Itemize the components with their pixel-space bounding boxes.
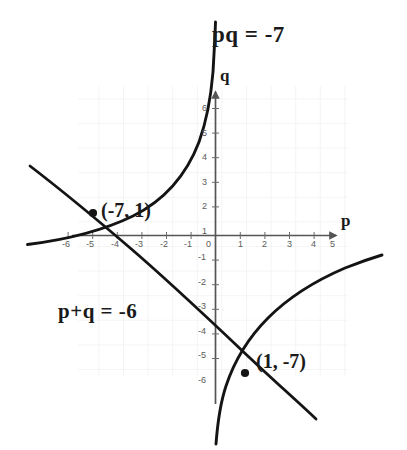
grid-background — [78, 86, 348, 376]
intersection-dot-lower — [241, 369, 249, 377]
x-tick-label--2: -2 — [160, 239, 168, 249]
y-tick-label--1: -1 — [198, 252, 206, 262]
line-equation-label: p+q = -6 — [58, 299, 137, 324]
x-tick-label--1: -1 — [184, 239, 192, 249]
x-tick-label--6: -6 — [62, 239, 70, 249]
graph-page: -6 -5 -4 -3 -2 -1 0 1 2 3 4 5 6 6 5 4 3 … — [0, 0, 407, 450]
x-tick-label-2: 2 — [262, 239, 267, 249]
x-tick-label-3: 3 — [287, 239, 292, 249]
curve-equation-label: pq = -7 — [212, 22, 285, 48]
y-tick-label--3: -3 — [198, 301, 206, 311]
x-tick-label--4: -4 — [111, 239, 119, 249]
x-tick-label-4: 4 — [311, 239, 316, 249]
x-tick-label-0: 0 — [206, 239, 211, 249]
x-tick-label-5: 5 — [330, 239, 335, 249]
y-tick-label-6: 6 — [202, 103, 207, 113]
y-tick-label--5: -5 — [198, 350, 206, 360]
y-tick-label--6: -6 — [198, 375, 206, 385]
y-tick-label-1: 1 — [202, 226, 207, 236]
x-tick-label--3: -3 — [135, 239, 143, 249]
y-tick-label--2: -2 — [198, 277, 206, 287]
x-tick-label-1: 1 — [238, 239, 243, 249]
x-axis-name-label: p — [341, 211, 350, 231]
intersection-dot-upper — [89, 209, 97, 217]
y-tick-label-3: 3 — [202, 177, 207, 187]
y-axis-name-label: q — [220, 66, 229, 86]
x-tick-label--5: -5 — [86, 239, 94, 249]
y-tick-label-5: 5 — [202, 128, 207, 138]
y-tick-label-4: 4 — [202, 152, 207, 162]
y-tick-label--4: -4 — [198, 326, 206, 336]
point-label-upper-left: (-7, 1) — [101, 199, 151, 222]
point-label-lower-right: (1, -7) — [256, 350, 306, 373]
y-tick-label-2: 2 — [202, 201, 207, 211]
